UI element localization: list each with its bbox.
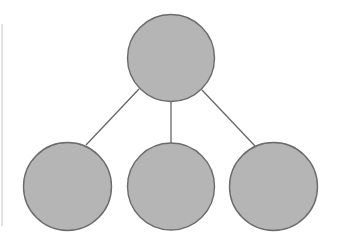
- node-child-right: [230, 143, 318, 231]
- node-child-middle: [128, 143, 215, 230]
- node-root: [128, 15, 215, 102]
- edge-root-to-child-left: [86, 89, 139, 145]
- edge-root-to-child-right: [202, 90, 255, 146]
- tree-diagram: [0, 0, 340, 252]
- node-child-left: [24, 143, 112, 231]
